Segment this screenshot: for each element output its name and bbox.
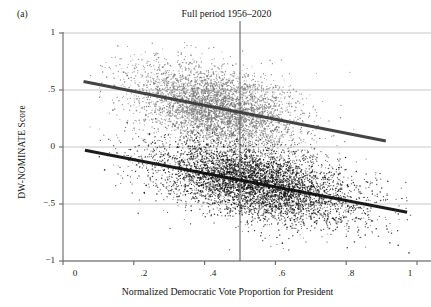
gridlines bbox=[63, 33, 431, 261]
scatter-plot-canvas bbox=[0, 0, 431, 307]
republican-point-cloud bbox=[89, 42, 354, 161]
axis-lines bbox=[63, 32, 431, 261]
figure-panel-a: (a) Full period 1956–2020 DW-NOMINATE Sc… bbox=[0, 0, 431, 307]
